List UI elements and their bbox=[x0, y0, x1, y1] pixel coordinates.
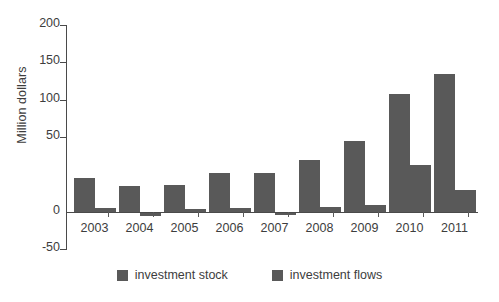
bar-investment-stock bbox=[254, 173, 275, 212]
bar-group-2005: 2005 bbox=[162, 25, 207, 249]
bar-investment-flows bbox=[140, 213, 161, 216]
y-tick-100: 100 bbox=[66, 100, 67, 101]
bar-group-2010: 2010 bbox=[387, 25, 432, 249]
x-axis-label-2003: 2003 bbox=[72, 221, 117, 235]
legend-swatch-icon bbox=[272, 270, 283, 281]
bar-group-2009: 2009 bbox=[342, 25, 387, 249]
x-axis-label-2011: 2011 bbox=[432, 221, 477, 235]
x-axis-label-2007: 2007 bbox=[252, 221, 297, 235]
x-axis-label-2004: 2004 bbox=[117, 221, 162, 235]
bar-group-2004: 2004 bbox=[117, 25, 162, 249]
bar-investment-stock bbox=[389, 94, 410, 212]
y-tick-label-50: 50 bbox=[14, 128, 60, 142]
y-tick-label-0: 0 bbox=[14, 203, 60, 217]
y-tick-label-150: 150 bbox=[14, 53, 60, 67]
bar-group-2003: 2003 bbox=[72, 25, 117, 249]
bar-investment-flows bbox=[320, 207, 341, 212]
legend-item-investment-stock: investment stock bbox=[117, 268, 228, 282]
bar-group-2011: 2011 bbox=[432, 25, 477, 249]
bar-investment-flows bbox=[365, 205, 386, 213]
bar-group-2006: 2006 bbox=[207, 25, 252, 249]
bar-investment-flows bbox=[410, 165, 431, 212]
bar-group-2007: 2007 bbox=[252, 25, 297, 249]
bar-investment-stock bbox=[74, 178, 95, 212]
y-tick-50: 50 bbox=[66, 137, 67, 138]
bar-investment-stock bbox=[119, 186, 140, 212]
plot-area: 200 150 100 50 0 -50 bbox=[66, 25, 478, 249]
bar-investment-stock bbox=[299, 160, 320, 212]
chart-legend: investment stock investment flows bbox=[0, 268, 499, 282]
bar-investment-stock bbox=[209, 173, 230, 212]
y-tick-200: 200 bbox=[66, 25, 67, 26]
y-tick-neg50: -50 bbox=[66, 249, 67, 250]
bar-group-2008: 2008 bbox=[297, 25, 342, 249]
bar-investment-stock bbox=[434, 74, 455, 212]
bar-investment-flows bbox=[275, 213, 296, 215]
x-axis-label-2005: 2005 bbox=[162, 221, 207, 235]
y-tick-label-neg50: -50 bbox=[14, 240, 60, 254]
legend-swatch-icon bbox=[117, 270, 128, 281]
legend-label-investment-stock: investment stock bbox=[135, 268, 228, 282]
legend-label-investment-flows: investment flows bbox=[290, 268, 382, 282]
bar-investment-flows bbox=[230, 208, 251, 212]
y-tick-0: 0 bbox=[66, 212, 67, 213]
bar-investment-stock bbox=[164, 185, 185, 212]
y-tick-label-200: 200 bbox=[14, 16, 60, 30]
legend-item-investment-flows: investment flows bbox=[272, 268, 382, 282]
bar-investment-flows bbox=[185, 209, 206, 212]
bar-chart: Million dollars 200 150 100 50 0 -50 bbox=[0, 0, 499, 302]
y-tick-label-100: 100 bbox=[14, 91, 60, 105]
x-axis-label-2006: 2006 bbox=[207, 221, 252, 235]
bar-investment-stock bbox=[344, 141, 365, 212]
bar-investment-flows bbox=[455, 190, 476, 212]
x-axis-label-2009: 2009 bbox=[342, 221, 387, 235]
x-axis-label-2008: 2008 bbox=[297, 221, 342, 235]
y-tick-150: 150 bbox=[66, 62, 67, 63]
x-axis-label-2010: 2010 bbox=[387, 221, 432, 235]
bar-investment-flows bbox=[95, 208, 116, 212]
